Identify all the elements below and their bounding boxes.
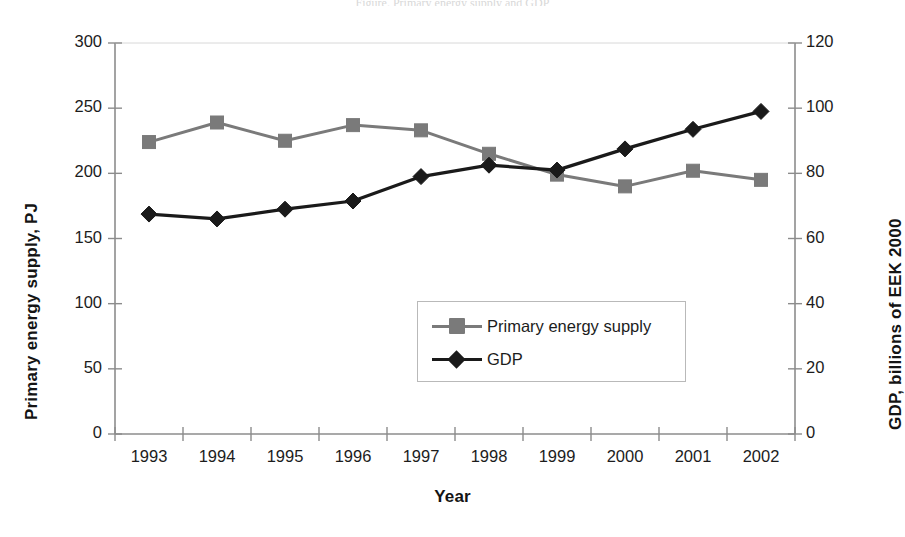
legend-label-0: Primary energy supply: [487, 317, 651, 336]
legend-label-1: GDP: [487, 350, 523, 369]
chart-figure: Figure. Primary energy supply and GDP Pr…: [0, 0, 905, 537]
legend-marker-diamond-icon: [432, 349, 482, 369]
legend-marker-square-icon: [432, 316, 482, 336]
data-point-0-7: [619, 180, 632, 193]
plot-area: [0, 0, 905, 537]
data-point-1-4: [413, 169, 429, 185]
square-marker-icon: [449, 318, 465, 334]
legend-item-gdp: GDP: [432, 347, 523, 371]
data-point-0-3: [347, 119, 360, 132]
chart-legend: Primary energy supply GDP: [417, 301, 686, 382]
data-point-1-1: [209, 211, 225, 227]
data-point-1-9: [753, 103, 769, 119]
legend-item-primary-energy-supply: Primary energy supply: [432, 314, 651, 338]
data-point-1-8: [685, 121, 701, 137]
data-point-0-9: [755, 173, 768, 186]
data-point-1-7: [617, 141, 633, 157]
data-point-0-8: [687, 164, 700, 177]
data-point-0-4: [415, 124, 428, 137]
data-point-1-0: [141, 206, 157, 222]
data-point-0-0: [143, 136, 156, 149]
data-point-1-2: [277, 201, 293, 217]
series-line-0: [149, 123, 761, 187]
data-point-0-2: [279, 134, 292, 147]
data-point-1-3: [345, 193, 361, 209]
data-point-0-1: [211, 116, 224, 129]
diamond-marker-icon: [447, 350, 465, 368]
